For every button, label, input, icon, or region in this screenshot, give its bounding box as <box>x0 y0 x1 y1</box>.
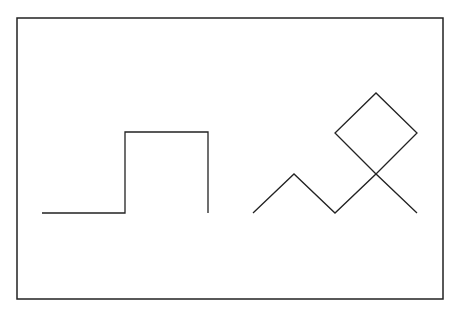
step-pulse-shape <box>42 132 208 213</box>
frame-border <box>17 18 443 299</box>
diagram-canvas <box>0 0 464 313</box>
zigzag-shape <box>253 174 417 213</box>
diamond-shape <box>335 93 417 174</box>
